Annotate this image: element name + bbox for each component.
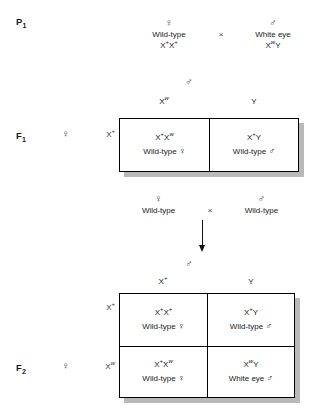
p1-male-parent: White eye XwY — [234, 29, 312, 51]
f1-cell-0-0[interactable]: X+Xw Wild-type ♀ — [120, 119, 209, 171]
f1-col-header-0: Xw — [119, 97, 209, 106]
p1-female-sex-symbol-wrap: ♀ — [130, 16, 208, 29]
f1-cross-male-sex-wrap: ♂ — [223, 192, 300, 205]
f2-cell-1-1[interactable]: XwY White eye ♂ — [207, 346, 294, 398]
f2-row-header-0: X+ — [93, 303, 115, 312]
f1-cross-male-parent: Wild-type — [223, 205, 300, 216]
male-icon: ♂ — [267, 373, 274, 383]
f1-row-axis-female-icon: ♀ — [62, 129, 70, 139]
f2-cell-0-1-genotype: X+Y — [244, 306, 258, 319]
f2-cell-0-0[interactable]: X+X+ Wild-type ♀ — [120, 294, 207, 346]
f2-cell-1-0-phenotype: Wild-type ♀ — [142, 371, 184, 386]
female-icon: ♀ — [178, 321, 185, 331]
f1-square-grid: X+Xw Wild-type ♀ X+Y Wild-type ♂ — [119, 118, 299, 172]
f1-cell-0-0-phenotype: Wild-type ♀ — [143, 144, 185, 159]
f1-cell-0-0-genotype: X+Xw — [155, 131, 174, 144]
f1-cell-0-1-phenotype-text: Wild-type — [233, 147, 266, 156]
female-icon: ♀ — [178, 373, 185, 383]
generation-label-f1: F1 — [16, 130, 26, 143]
p1-cross-block: ♀ ♂ Wild-type X+X+ × White eye XwY — [126, 16, 316, 51]
f1-cross-female-sex-wrap: ♀ — [120, 192, 197, 205]
punnett-square-f2: X+X+ Wild-type ♀ X+Y Wild-type ♂ X+Xw Wi… — [119, 293, 295, 398]
p1-male-phenotype: White eye — [234, 29, 312, 40]
p1-male-genotype: XwY — [234, 40, 312, 51]
f2-cell-1-0-genotype: X+Xw — [154, 358, 173, 371]
f2-col-header-0: X+ — [119, 277, 207, 286]
f2-cell-0-0-genotype: X+X+ — [155, 306, 173, 319]
f2-row-axis-female-icon: ♀ — [62, 361, 70, 371]
f2-cell-1-1-phenotype: White eye ♂ — [229, 371, 274, 386]
f1-cross-male-phenotype: Wild-type — [223, 205, 300, 216]
f2-cell-1-0[interactable]: X+Xw Wild-type ♀ — [120, 346, 207, 398]
f1-col-axis-male-icon: ♂ — [179, 76, 199, 87]
f2-cell-0-1[interactable]: X+Y Wild-type ♂ — [207, 294, 294, 346]
p1-female-genotype: X+X+ — [130, 40, 208, 51]
f2-cell-1-1-genotype: XwY — [243, 358, 258, 371]
p1-female-parent: Wild-type X+X+ — [130, 29, 208, 51]
f2-cell-0-0-phenotype-text: Wild-type — [142, 322, 175, 331]
f2-cell-1-0-phenotype-text: Wild-type — [142, 374, 175, 383]
f1-cell-0-1[interactable]: X+Y Wild-type ♂ — [209, 119, 298, 171]
f2-col-header-1: Y — [207, 277, 295, 286]
generation-label-p1: P1 — [16, 16, 27, 29]
f2-cell-0-1-phenotype-text: Wild-type — [230, 322, 263, 331]
f1-cell-0-1-phenotype: Wild-type ♂ — [233, 144, 275, 159]
f2-row-header-1: Xw — [93, 362, 115, 371]
female-icon: ♀ — [130, 16, 208, 29]
male-icon: ♂ — [234, 16, 312, 29]
cross-symbol-icon: × — [208, 30, 234, 39]
female-icon: ♀ — [120, 192, 197, 205]
f2-col-axis-male-icon: ♂ — [179, 258, 199, 269]
f2-cell-0-1-phenotype: Wild-type ♂ — [230, 319, 272, 334]
f1-cross-phenotype-row: Wild-type × Wild-type — [120, 205, 300, 216]
f1-cell-0-1-genotype: X+Y — [247, 131, 261, 144]
male-icon: ♂ — [223, 192, 300, 205]
down-arrow-shaft — [202, 220, 203, 247]
down-arrow-icon — [199, 245, 205, 252]
generation-label-f2-subscript: 2 — [22, 368, 26, 375]
cross-symbol-icon: × — [197, 206, 223, 215]
f1-cross-female-phenotype: Wild-type — [120, 205, 197, 216]
f2-square-grid: X+X+ Wild-type ♀ X+Y Wild-type ♂ X+Xw Wi… — [119, 293, 295, 398]
p1-male-sex-symbol-wrap: ♂ — [234, 16, 312, 29]
f2-cell-1-1-phenotype-text: White eye — [229, 374, 265, 383]
f1-row-header-0: X+ — [93, 130, 115, 139]
p1-female-phenotype: Wild-type — [130, 29, 208, 40]
punnett-square-f1: X+Xw Wild-type ♀ X+Y Wild-type ♂ — [119, 118, 299, 172]
f1-col-header-1: Y — [209, 97, 299, 106]
female-icon: ♀ — [179, 146, 186, 156]
male-icon: ♂ — [265, 321, 272, 331]
generation-label-p1-subscript: 1 — [23, 22, 27, 29]
f1-cell-0-0-phenotype-text: Wild-type — [143, 147, 176, 156]
f1-cross-sex-symbol-row: ♀ ♂ — [120, 192, 300, 205]
f1-cross-female-parent: Wild-type — [120, 205, 197, 216]
generation-label-f2: F2 — [16, 362, 26, 375]
f1-cross-block: ♀ ♂ Wild-type × Wild-type — [120, 192, 300, 216]
p1-sex-symbol-row: ♀ ♂ — [126, 16, 316, 29]
generation-label-f1-subscript: 1 — [22, 136, 26, 143]
p1-phenotype-row: Wild-type X+X+ × White eye XwY — [126, 29, 316, 51]
f2-cell-0-0-phenotype: Wild-type ♀ — [142, 319, 184, 334]
male-icon: ♂ — [268, 146, 275, 156]
